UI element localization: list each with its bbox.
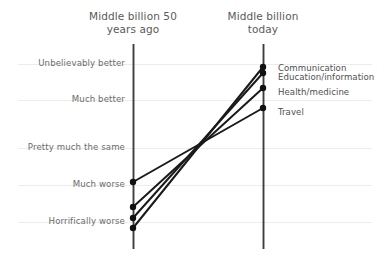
series-label-row-1: Education/information bbox=[278, 72, 390, 82]
series-label-health-medicine: Health/medicine bbox=[278, 87, 349, 97]
y-tick-label-pretty-much-the-same: Pretty much the same bbox=[28, 142, 125, 152]
y-tick-2: Pretty much the same bbox=[0, 142, 125, 152]
y-tick-label-much-worse: Much worse bbox=[73, 179, 125, 189]
series-label-row-2: Health/medicine bbox=[278, 87, 390, 97]
slopegraph-chart: Middle billion 50 years ago Middle billi… bbox=[0, 0, 390, 263]
marker-past-1 bbox=[130, 215, 136, 221]
marker-past-2 bbox=[130, 204, 136, 210]
slope-line-3 bbox=[133, 108, 263, 182]
y-tick-4: Horrifically worse bbox=[0, 216, 125, 226]
marker-present-1 bbox=[260, 70, 266, 76]
marker-present-0 bbox=[260, 64, 266, 70]
y-tick-label-much-better: Much better bbox=[72, 94, 125, 104]
series-label-row-3: Travel bbox=[278, 107, 390, 117]
series-label-travel: Travel bbox=[278, 107, 304, 117]
y-tick-0: Unbelievably better bbox=[0, 58, 125, 68]
slope-line-2 bbox=[133, 88, 263, 207]
marker-past-3 bbox=[130, 179, 136, 185]
y-tick-3: Much worse bbox=[0, 179, 125, 189]
y-tick-label-horrifically-worse: Horrifically worse bbox=[49, 216, 125, 226]
y-tick-1: Much better bbox=[0, 94, 125, 104]
marker-present-3 bbox=[260, 105, 266, 111]
y-tick-label-unbelievably-better: Unbelievably better bbox=[38, 58, 125, 68]
marker-past-0 bbox=[130, 225, 136, 231]
marker-present-2 bbox=[260, 85, 266, 91]
series-label-education-information: Education/information bbox=[278, 72, 374, 82]
